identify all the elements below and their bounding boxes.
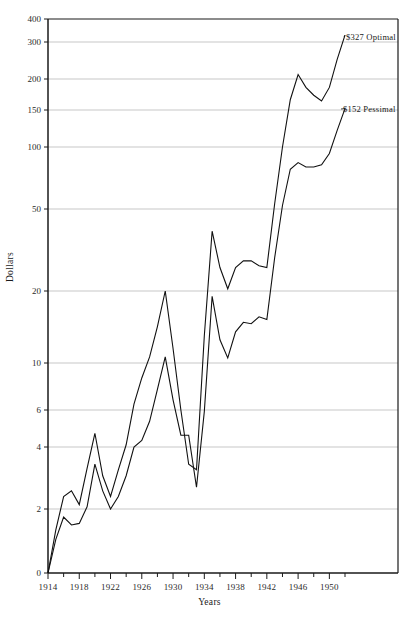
y-tick-label-6: 6 — [37, 405, 42, 415]
x-tick-labels-group: 1914191819221926193019341938194219461950 — [39, 582, 339, 592]
series-lines-group — [48, 35, 345, 573]
x-tick-label-1922: 1922 — [101, 582, 120, 592]
y-tick-label-400: 400 — [28, 14, 42, 24]
series-annotations-group: $327 Optimal$152 Pessimal — [341, 32, 396, 114]
y-tick-label-20: 20 — [32, 286, 42, 296]
x-tick-marks-group — [48, 573, 345, 579]
y-tick-label-10: 10 — [32, 358, 42, 368]
x-tick-label-1946: 1946 — [289, 582, 308, 592]
y-tick-label-4: 4 — [37, 442, 42, 452]
y-tick-label-150: 150 — [28, 105, 42, 115]
x-tick-label-1914: 1914 — [39, 582, 58, 592]
y-tick-label-2: 2 — [37, 504, 42, 514]
y-tick-labels-group: 0246102050100150200300400 — [28, 14, 42, 578]
y-tick-label-100: 100 — [28, 142, 42, 152]
y-tick-label-50: 50 — [32, 204, 42, 214]
x-tick-label-1942: 1942 — [257, 582, 276, 592]
y-tick-label-300: 300 — [28, 37, 42, 47]
x-tick-label-1934: 1934 — [195, 582, 214, 592]
x-tick-label-1930: 1930 — [164, 582, 183, 592]
y-axis-title: Dollars — [5, 237, 15, 297]
x-tick-label-1950: 1950 — [320, 582, 339, 592]
annotation-label-optimal: $327 Optimal — [346, 32, 396, 42]
series-line-optimal — [48, 35, 345, 573]
y-tick-label-0: 0 — [37, 568, 42, 578]
y-tick-label-200: 200 — [28, 74, 42, 84]
x-tick-label-1926: 1926 — [132, 582, 151, 592]
x-tick-label-1918: 1918 — [70, 582, 89, 592]
x-axis-title: Years — [0, 597, 419, 607]
chart-container: 0246102050100150200300400 19141918192219… — [0, 0, 419, 621]
series-line-pessimal — [48, 109, 345, 573]
annotation-label-pessimal: $152 Pessimal — [343, 104, 396, 114]
line-chart-svg: 0246102050100150200300400 19141918192219… — [0, 0, 419, 621]
x-tick-label-1938: 1938 — [226, 582, 245, 592]
